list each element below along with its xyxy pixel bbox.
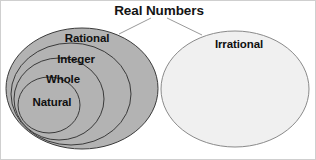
irrational-group: Irrational xyxy=(161,31,309,147)
real-numbers-diagram: Irrational Rational Integer Whole Natura… xyxy=(0,0,316,160)
connector-left-line xyxy=(119,18,151,34)
diagram-title: Real Numbers xyxy=(114,3,204,18)
diagram-canvas: Irrational Rational Integer Whole Natura… xyxy=(1,1,316,160)
integer-label: Integer xyxy=(57,53,95,65)
rational-label: Rational xyxy=(65,32,110,44)
irrational-label: Irrational xyxy=(215,38,263,50)
connector-right-line xyxy=(167,18,202,35)
whole-label: Whole xyxy=(46,73,80,85)
natural-label: Natural xyxy=(33,96,72,108)
rational-group: Rational Integer Whole Natural xyxy=(6,28,158,149)
